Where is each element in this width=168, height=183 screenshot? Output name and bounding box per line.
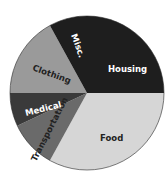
pie-chart: Housing Food Transportation Medical Clot… (0, 0, 168, 183)
pie-slices (10, 16, 164, 170)
label-food: Food (100, 133, 123, 143)
label-housing: Housing (108, 64, 147, 74)
slice-housing (87, 16, 164, 93)
